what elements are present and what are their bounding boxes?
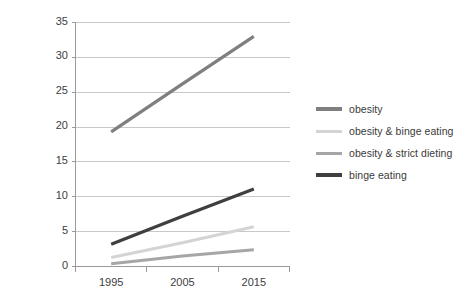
legend-item-label: obesity (349, 103, 383, 115)
chart-legend: obesityobesity & binge eatingobesity & s… (316, 98, 463, 186)
y-tick-label: 35 (20, 15, 68, 27)
legend-item-label: binge eating (349, 169, 407, 181)
y-tick-label: 20 (20, 119, 68, 131)
x-tick-label: 2005 (153, 276, 213, 288)
y-tick-label: 0 (20, 259, 68, 271)
y-tick-label: 5 (20, 224, 68, 236)
legend-item-label: obesity & strict dieting (349, 147, 452, 159)
x-tick-label: 1995 (81, 276, 141, 288)
series-line-binge-eating (111, 189, 254, 244)
legend-item[interactable]: binge eating (316, 164, 463, 186)
y-tick-label: 25 (20, 84, 68, 96)
legend-item[interactable]: obesity (316, 98, 463, 120)
legend-color-swatch-icon (316, 152, 342, 155)
legend-color-swatch-icon (316, 173, 342, 176)
y-tick-label: 15 (20, 154, 68, 166)
legend-item[interactable]: obesity & strict dieting (316, 142, 463, 164)
legend-item[interactable]: obesity & binge eating (316, 120, 463, 142)
x-tick-label: 2015 (224, 276, 284, 288)
line-chart: 05101520253035 199520052015 obesityobesi… (0, 0, 463, 292)
legend-color-swatch-icon (316, 130, 342, 133)
legend-item-label: obesity & binge eating (349, 125, 453, 137)
legend-color-swatch-icon (316, 107, 342, 110)
series-line-obesity (111, 36, 254, 132)
y-tick-label: 10 (20, 189, 68, 201)
y-tick-label: 30 (20, 49, 68, 61)
